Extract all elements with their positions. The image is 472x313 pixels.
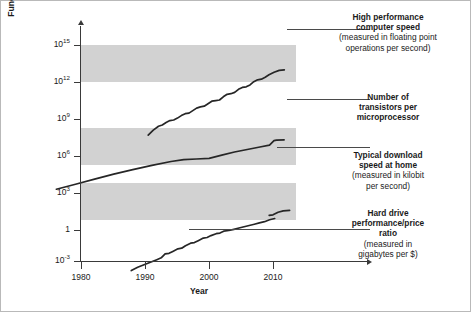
y-tick-mantissa: 1 (65, 224, 70, 234)
leader-line-download-speed (277, 147, 370, 148)
callout-headline-line2: performance/price (313, 218, 463, 228)
y-tick-exponent: 6 (67, 148, 70, 155)
y-tick-1e9 (74, 119, 81, 120)
y-tick-mantissa: 10 (54, 39, 63, 49)
y-tick-label-1e-3: 10-3 (44, 256, 70, 265)
y-axis-arrowhead (78, 20, 84, 25)
y-tick-1 (74, 230, 81, 231)
y-tick-exponent: 9 (67, 111, 70, 118)
y-tick-label-1e6: 106 (44, 151, 70, 160)
x-axis-arrowhead (367, 259, 372, 265)
y-tick-label-1e9: 109 (44, 114, 70, 123)
chart-figure: 1015 1012 109 106 103 1 10-3 1980 1990 2… (0, 0, 472, 313)
x-tick-1990 (145, 262, 146, 269)
y-tick-1e15 (74, 45, 81, 46)
y-tick-exponent: 3 (67, 185, 70, 192)
callout-hard-drive-performance-price: Hard drive performance/price ratio (meas… (313, 208, 463, 259)
y-tick-exponent: 12 (63, 74, 70, 81)
x-tick-label-2010: 2010 (253, 273, 293, 282)
x-tick-2010 (273, 262, 274, 269)
callout-headline-line2: computer speed (313, 22, 463, 32)
y-tick-exponent: 15 (63, 37, 70, 44)
y-tick-mantissa: 10 (57, 150, 66, 160)
series-line-hard-drive-performance-price (269, 210, 289, 215)
y-tick-1e12 (74, 82, 81, 83)
callout-typical-download-speed: Typical download speed at home (measured… (313, 150, 463, 191)
x-tick-label-2000: 2000 (189, 273, 229, 282)
callout-headline-line3: microprocessor (313, 112, 463, 122)
callout-sub-line1: (measured in floating point (313, 32, 463, 42)
callout-high-performance-computer-speed: High performance computer speed (measure… (313, 12, 463, 53)
callout-sub-line1: (measured in kilobit (313, 170, 463, 180)
y-tick-exponent: -3 (64, 253, 70, 260)
y-tick-mantissa: 10 (57, 187, 66, 197)
y-tick-1e6 (74, 156, 81, 157)
x-axis-title: Year (169, 286, 229, 296)
callout-transistors-per-microprocessor: Number of transistors per microprocessor (313, 92, 463, 123)
callout-headline-line2: speed at home (313, 160, 463, 170)
y-axis-line (80, 26, 81, 262)
x-axis-line (80, 261, 368, 262)
y-tick-label-1e3: 103 (44, 188, 70, 197)
x-tick-label-1980: 1980 (61, 273, 101, 282)
callout-headline-line1: Typical download (313, 150, 463, 160)
y-tick-label-1e12: 1012 (44, 77, 70, 86)
callout-headline-line1: High performance (313, 12, 463, 22)
callout-sub-line1: (measured in (313, 239, 463, 249)
y-tick-label-1e15: 1015 (44, 40, 70, 49)
callout-headline-line3: ratio (313, 228, 463, 238)
x-tick-1980 (81, 262, 82, 269)
callout-sub-line2: per second) (313, 181, 463, 191)
y-axis-title: Functional or performance metric of info… (6, 0, 28, 38)
callout-headline-line1: Number of (313, 92, 463, 102)
y-axis-title-line1: Functional or performance metric of (6, 0, 16, 17)
x-tick-2000 (209, 262, 210, 269)
series-line-transistors-per-microprocessor (56, 140, 284, 189)
plot-area (81, 22, 296, 261)
series-line-high-performance-computer-speed (148, 70, 284, 135)
y-tick-label-1: 1 (44, 225, 70, 234)
series-layer (81, 22, 296, 261)
callout-headline-line2: transistors per (313, 102, 463, 112)
x-tick-label-1990: 1990 (125, 273, 165, 282)
callout-headline-line1: Hard drive (313, 208, 463, 218)
y-tick-mantissa: 10 (54, 76, 63, 86)
callout-sub-line2: operations per second) (313, 43, 463, 53)
callout-sub-line2: gigabytes per $) (313, 249, 463, 259)
y-tick-mantissa: 10 (57, 113, 66, 123)
y-tick-1e3 (74, 193, 81, 194)
